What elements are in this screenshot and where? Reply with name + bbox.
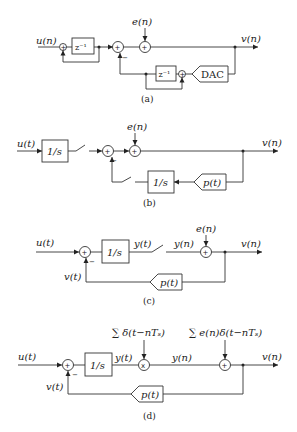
minus-sign: −: [122, 54, 128, 62]
svg-text:+: +: [65, 362, 71, 370]
input-label-a: u(n): [36, 35, 57, 46]
svg-text:+: +: [222, 362, 228, 370]
sampler-switch-c: [152, 245, 163, 252]
panel-d: ∑ δ(t−nTₛ) ∑ e(n)δ(t−nTₛ) u(t) + − 1/s y…: [18, 327, 282, 421]
block-diagram-figure: u(n) + z⁻¹ + − + e(n) v(n) DAC + z⁻¹: [0, 0, 297, 432]
pulse-label-d: p(t): [141, 389, 159, 400]
noise-label-c: e(n): [196, 223, 216, 234]
svg-text:+: +: [132, 148, 138, 156]
y-disc-label-d: y(n): [171, 352, 192, 363]
svg-text:−: −: [72, 371, 78, 379]
y-cont-label-c: y(t): [133, 238, 152, 249]
svg-text:+: +: [115, 44, 121, 52]
svg-text:+: +: [180, 71, 186, 79]
pulse-label-c: p(t): [160, 277, 178, 288]
noise-label-b: e(n): [127, 121, 147, 132]
sampler-switch-b1: [76, 145, 85, 151]
output-label-b: v(n): [262, 137, 282, 148]
dac-label: DAC: [201, 69, 224, 80]
input-label-b: u(t): [17, 138, 35, 149]
y-cont-label-d: y(t): [114, 352, 133, 363]
integrator-label-b2: 1/s: [153, 177, 168, 188]
caption-b: (b): [143, 198, 156, 208]
integrator-label-c: 1/s: [107, 247, 122, 258]
integrator-label-d: 1/s: [90, 360, 105, 371]
sampler-switch-b2: [122, 177, 131, 182]
integrator-label-b1: 1/s: [47, 146, 62, 157]
output-label-a: v(n): [241, 33, 261, 44]
panel-b: u(t) 1/s + − + e(n) v(n) p(t) 1/s (b): [17, 121, 282, 208]
output-label-c: v(n): [241, 238, 261, 249]
svg-text:+: +: [203, 249, 209, 257]
svg-text:x: x: [141, 362, 145, 370]
svg-text:+: +: [82, 249, 88, 257]
svg-text:+: +: [142, 44, 148, 52]
svg-text:+: +: [105, 148, 111, 156]
caption-c: (c): [143, 296, 155, 306]
svg-text:−: −: [89, 258, 95, 266]
delay-label-1: z⁻¹: [75, 43, 87, 52]
sampler-label-d: ∑ δ(t−nTₛ): [112, 327, 165, 338]
y-disc-label-c: y(n): [173, 238, 194, 249]
panel-a: u(n) + z⁻¹ + − + e(n) v(n) DAC + z⁻¹: [36, 16, 261, 104]
panel-c: u(t) + − 1/s y(t) y(n) + e(n) v(n) p(t) …: [36, 223, 262, 290]
noise-label-d: ∑ e(n)δ(t−nTₛ): [189, 327, 262, 338]
noise-label-a: e(n): [132, 16, 152, 27]
sum-sign: +: [61, 44, 67, 52]
caption-d: (d): [143, 411, 156, 421]
delay-label-2: z⁻¹: [159, 70, 171, 79]
caption-a: (a): [141, 94, 153, 104]
feedback-label-d: v(t): [46, 381, 64, 392]
output-label-d: v(n): [262, 351, 282, 362]
feedback-label-c: v(t): [64, 271, 82, 282]
input-label-c: u(t): [36, 237, 54, 248]
input-label-d: u(t): [18, 351, 36, 362]
pulse-label-b: p(t): [203, 177, 221, 188]
